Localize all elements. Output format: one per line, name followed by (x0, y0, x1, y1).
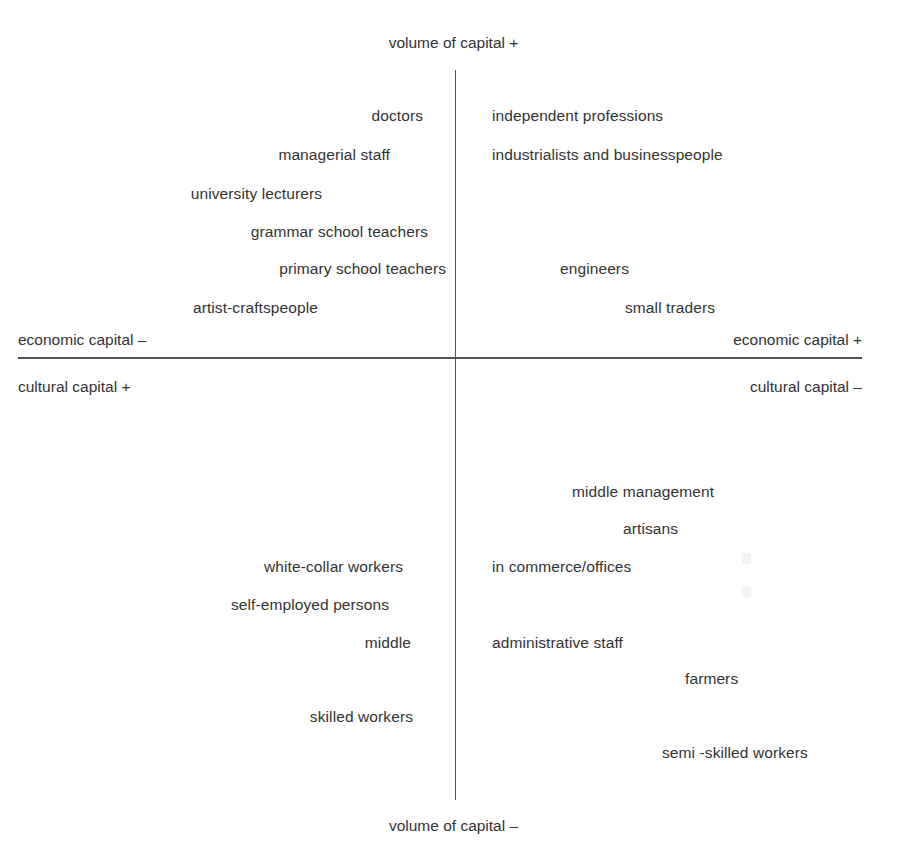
quadrant-item-label: semi -skilled workers (662, 745, 808, 761)
volume-of-capital-positive-label: volume of capital + (0, 35, 907, 51)
quadrant-item-label: industrialists and businesspeople (492, 147, 723, 163)
quadrant-item-label: doctors (0, 108, 423, 124)
quadrant-item-label: managerial staff (0, 147, 390, 163)
cultural-capital-negative-label: cultural capital – (0, 379, 862, 395)
quadrant-item-label: grammar school teachers (0, 224, 428, 240)
social-space-diagram: volume of capital + economic capital – e… (0, 0, 907, 852)
quadrant-item-label: white-collar workers (0, 559, 403, 575)
quadrant-item-label: artisans (623, 521, 678, 537)
quadrant-item-label: engineers (560, 261, 629, 277)
scan-artifact (742, 586, 751, 597)
quadrant-item-label: middle management (572, 484, 714, 500)
scan-artifact (742, 553, 751, 564)
volume-of-capital-negative-label: volume of capital – (0, 818, 907, 834)
quadrant-item-label: skilled workers (0, 709, 413, 725)
quadrant-item-label: primary school teachers (0, 261, 446, 277)
quadrant-item-label: small traders (625, 300, 715, 316)
quadrant-item-label: university lecturers (0, 186, 322, 202)
quadrant-item-label: administrative staff (492, 635, 623, 651)
quadrant-item-label: self-employed persons (0, 597, 389, 613)
quadrant-item-label: artist-craftspeople (0, 300, 318, 316)
quadrant-item-label: independent professions (492, 108, 663, 124)
vertical-axis-line (455, 70, 456, 800)
quadrant-item-label: middle (0, 635, 411, 651)
economic-capital-positive-label: economic capital + (0, 332, 862, 348)
quadrant-item-label: in commerce/offices (492, 559, 631, 575)
horizontal-axis-line (18, 357, 862, 359)
quadrant-item-label: farmers (685, 671, 738, 687)
